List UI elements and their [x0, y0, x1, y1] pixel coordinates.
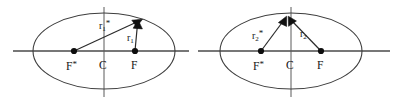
right-focus-star-dot	[258, 48, 264, 54]
right-center-label: C	[286, 60, 294, 72]
right-radius-star-arrowhead	[278, 16, 286, 26]
left-radius-star-label: r1*	[99, 19, 110, 33]
right-focus-star-label: F*	[253, 60, 264, 73]
left-focus-star-asterisk: *	[73, 59, 78, 69]
diagram-canvas	[0, 0, 402, 105]
left-focus-dot	[132, 48, 138, 54]
left-focus-star-label: F*	[66, 60, 77, 73]
figure-container: F* C F r1* r1 F* C F r2* r2	[0, 0, 402, 105]
left-radius-star-asterisk: *	[106, 18, 111, 28]
right-focus-star-asterisk: *	[260, 59, 265, 69]
right-focus-dot	[318, 48, 324, 54]
right-focus-label: F	[317, 60, 324, 72]
left-center-label: C	[99, 60, 107, 72]
right-radius-star-asterisk: *	[259, 28, 264, 38]
right-radius-subscript: 2	[303, 33, 307, 41]
right-radius-star-line	[261, 20, 284, 51]
right-radius-label: r2	[300, 29, 307, 41]
right-ellipse-group	[198, 7, 390, 97]
left-radius-label: r1	[127, 33, 134, 45]
left-focus-label: F	[131, 60, 138, 72]
right-radius-star-label: r2*	[252, 29, 263, 43]
left-focus-star-dot	[71, 48, 77, 54]
left-radius-subscript: 1	[130, 37, 134, 45]
